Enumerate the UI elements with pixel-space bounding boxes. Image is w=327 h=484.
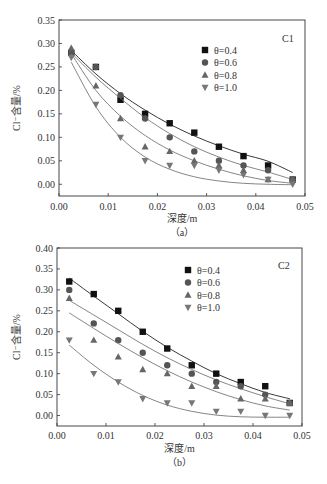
- y-tick-label: 0.05: [36, 389, 54, 400]
- y-tick-label: 0.10: [38, 132, 56, 143]
- legend-marker-icon: [185, 279, 191, 285]
- legend-label: θ=1.0: [214, 82, 237, 93]
- legend-label: θ=0.4: [214, 45, 237, 56]
- data-point: [139, 366, 146, 372]
- x-tick-label: 0.00: [48, 430, 66, 441]
- chart-panel-b: 0.000.050.100.150.200.250.300.350.400.00…: [10, 243, 311, 469]
- x-tick-label: 0.03: [198, 201, 216, 212]
- data-point: [189, 370, 195, 376]
- y-tick-label: 0.35: [36, 263, 54, 274]
- x-axis-title: 深度/m: [167, 212, 198, 224]
- data-point: [237, 409, 244, 415]
- data-point: [215, 167, 222, 173]
- data-point: [216, 144, 222, 150]
- data-point: [188, 400, 195, 406]
- legend-marker-icon: [185, 291, 192, 297]
- data-point: [237, 395, 244, 401]
- x-tick-label: 0.02: [146, 430, 164, 441]
- x-tick-label: 0.01: [97, 430, 115, 441]
- x-tick-label: 0.04: [247, 201, 265, 212]
- x-tick-label: 0.05: [293, 430, 311, 441]
- y-tick-label: 0.05: [38, 155, 56, 166]
- data-point: [66, 337, 73, 343]
- data-point: [90, 336, 97, 342]
- y-tick-label: 0.20: [38, 85, 56, 96]
- y-tick-label: 0.30: [36, 284, 54, 295]
- data-point: [140, 350, 146, 356]
- data-point: [191, 163, 198, 169]
- data-point: [189, 362, 195, 368]
- data-point: [164, 345, 170, 351]
- data-point: [92, 102, 99, 108]
- legend-label: θ=0.8: [197, 290, 220, 301]
- legend-marker-icon: [202, 71, 209, 77]
- legend-marker-icon: [202, 85, 209, 91]
- data-point: [91, 291, 97, 297]
- chart-panel-a: 0.000.050.100.150.200.250.300.350.000.01…: [10, 15, 314, 239]
- data-point: [91, 320, 97, 326]
- data-point: [68, 44, 75, 50]
- y-tick-label: 0.10: [36, 368, 54, 379]
- panel-label: （b）: [167, 457, 192, 468]
- data-point: [191, 148, 197, 154]
- data-point: [164, 362, 170, 368]
- fit-curve: [71, 62, 292, 184]
- fit-curve: [71, 53, 292, 180]
- data-point: [90, 371, 97, 377]
- figure-canvas: 0.000.050.100.150.200.250.300.350.000.01…: [0, 0, 327, 484]
- data-point: [115, 353, 122, 359]
- y-tick-label: 0.15: [36, 347, 54, 358]
- data-point: [66, 278, 72, 284]
- y-tick-label: 0.35: [38, 15, 56, 26]
- y-tick-label: 0.25: [36, 305, 54, 316]
- data-point: [92, 82, 99, 88]
- data-point: [139, 396, 146, 402]
- y-tick-label: 0.30: [38, 38, 56, 49]
- data-point: [142, 143, 149, 149]
- data-point: [115, 308, 121, 314]
- data-point: [66, 287, 72, 293]
- x-tick-label: 0.04: [244, 430, 262, 441]
- data-point: [213, 409, 220, 415]
- data-point: [213, 370, 219, 376]
- fit-curve: [69, 278, 290, 399]
- data-point: [262, 383, 268, 389]
- y-tick-label: 0.00: [36, 410, 54, 421]
- legend-label: θ=0.4: [197, 265, 220, 276]
- y-tick-label: 0.15: [38, 108, 56, 119]
- y-tick-label: 0.20: [36, 326, 54, 337]
- data-point: [140, 329, 146, 335]
- legend-label: θ=1.0: [197, 302, 220, 313]
- data-point: [286, 413, 293, 419]
- data-point: [142, 158, 149, 164]
- x-tick-label: 0.01: [99, 201, 117, 212]
- y-axis-title: Cl⁻含量/%: [10, 314, 22, 360]
- panel-label: （a）: [170, 227, 194, 238]
- data-point: [93, 64, 99, 70]
- data-point: [191, 129, 197, 135]
- y-tick-label: 0.40: [36, 243, 54, 254]
- x-tick-label: 0.02: [149, 201, 167, 212]
- data-point: [167, 134, 173, 140]
- x-tick-label: 0.05: [296, 201, 314, 212]
- fit-curve: [71, 51, 292, 173]
- legend-marker-icon: [185, 305, 192, 311]
- data-point: [167, 120, 173, 126]
- data-point: [238, 383, 244, 389]
- legend-marker-icon: [185, 267, 191, 273]
- data-point: [117, 92, 123, 98]
- data-point: [262, 413, 269, 419]
- legend-marker-icon: [202, 47, 208, 53]
- x-axis-title: 深度/m: [164, 442, 195, 454]
- specimen-tag: C1: [282, 33, 294, 44]
- x-tick-label: 0.03: [195, 430, 213, 441]
- legend-marker-icon: [202, 59, 208, 65]
- data-point: [265, 167, 271, 173]
- y-tick-label: 0.00: [38, 179, 56, 190]
- y-tick-label: 0.25: [38, 61, 56, 72]
- data-point: [115, 379, 122, 385]
- x-tick-label: 0.00: [50, 201, 68, 212]
- data-point: [66, 295, 73, 301]
- data-point: [142, 115, 148, 121]
- data-point: [164, 370, 171, 376]
